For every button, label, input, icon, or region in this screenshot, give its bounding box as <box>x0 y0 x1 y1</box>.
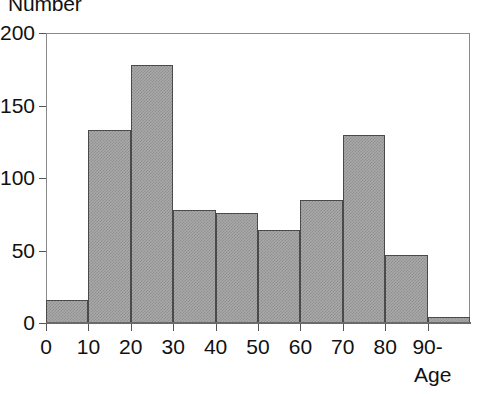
histogram-bar <box>300 200 342 323</box>
x-axis-tick-mark <box>88 324 89 331</box>
histogram-bar <box>131 65 173 323</box>
y-axis-tick-label: 200 <box>0 22 35 43</box>
y-axis-tick-mark <box>39 106 46 107</box>
x-axis-tick-mark <box>258 324 259 331</box>
x-axis-tick-mark <box>46 324 47 331</box>
x-axis-tick-mark <box>173 324 174 331</box>
x-axis-tick-mark <box>385 324 386 331</box>
y-axis-tick-mark <box>39 33 46 34</box>
histogram-bar <box>343 135 385 324</box>
y-axis-tick-mark <box>39 178 46 179</box>
y-axis-tick-label: 0 <box>23 312 35 333</box>
histogram-bar <box>385 255 427 323</box>
y-axis-tick-label: 50 <box>12 240 35 261</box>
y-axis-tick-mark <box>39 251 46 252</box>
x-axis-tick-mark <box>216 324 217 331</box>
histogram-bar <box>46 300 88 323</box>
bars-group <box>46 33 470 323</box>
x-axis-tick-mark <box>300 324 301 331</box>
x-axis-title: Age <box>414 364 451 385</box>
histogram-bar <box>216 213 258 323</box>
y-axis-tick-label: 150 <box>0 95 35 116</box>
y-axis-tick-label: 100 <box>0 167 35 188</box>
y-axis-title: Number <box>8 0 82 14</box>
x-axis-tick-label: 90- <box>398 336 458 357</box>
x-axis-tick-mark <box>343 324 344 331</box>
histogram-bar <box>258 230 300 323</box>
x-axis-tick-mark <box>428 324 429 331</box>
x-axis-tick-mark <box>131 324 132 331</box>
histogram-bar <box>88 130 130 323</box>
y-axis-tick-mark <box>39 323 46 324</box>
histogram-bar <box>173 210 215 323</box>
histogram-chart: Number 200150100500 0102030405060708090-… <box>0 0 480 394</box>
